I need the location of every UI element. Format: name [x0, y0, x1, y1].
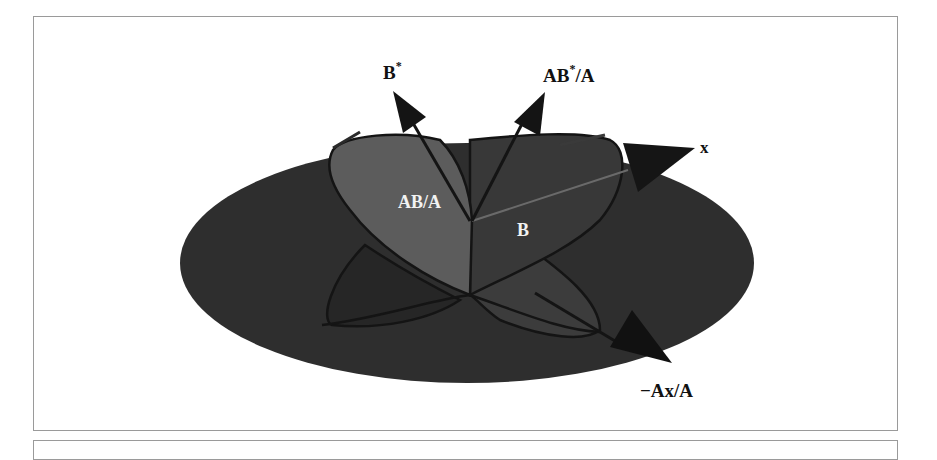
label-ab-star-a-prefix: AB — [543, 65, 569, 86]
label-ab-star-a-suffix: /A — [575, 65, 594, 86]
label-b-star-sup: * — [396, 59, 402, 73]
label-minus-ax-over-a-text: −Ax/A — [640, 380, 693, 401]
label-b-star-text: B — [383, 62, 396, 83]
label-ab-over-a: AB/A — [398, 193, 441, 211]
label-ab-star-over-a: AB*/A — [543, 66, 594, 85]
label-b-star: B* — [383, 63, 402, 82]
label-ab-star-a-sup: * — [569, 62, 575, 76]
b-star-arrowhead-icon — [393, 91, 426, 133]
label-minus-ax-over-a: −Ax/A — [640, 381, 693, 400]
label-ab-over-a-text: AB/A — [398, 192, 441, 212]
label-b-text: B — [517, 220, 529, 240]
label-b: B — [517, 221, 529, 239]
label-x: x — [700, 139, 709, 156]
label-x-text: x — [700, 138, 709, 157]
